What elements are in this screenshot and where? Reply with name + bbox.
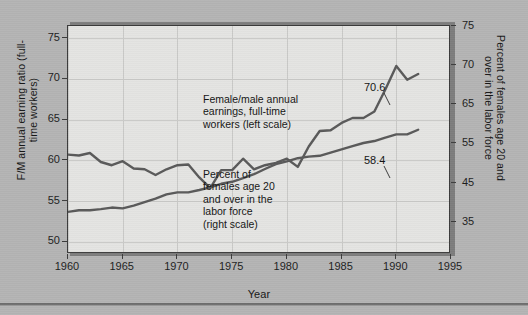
y-tick-label-left: 75 [36,32,60,43]
y-axis-title-right: Percent of females age 20 and over in th… [483,33,507,183]
y-tick-mark-left [62,119,67,120]
y-tick-mark-right [451,64,456,65]
figure-bottom-rule [0,303,528,306]
y-tick-mark-left [62,159,67,160]
x-tick-label: 1985 [321,261,361,272]
value-leader-line [384,166,390,178]
value-label-earnings-ratio: 70.6 [364,81,385,93]
value-leader-line [384,93,390,105]
y-tick-label-right: 75 [462,20,488,31]
annotation-labor-force: Percent of females age 20 and over in th… [203,168,275,230]
y-tick-label-left: 55 [36,195,60,206]
y-tick-label-left: 50 [36,235,60,246]
y-tick-label-right: 35 [462,216,488,227]
y-tick-label-left: 70 [36,72,60,83]
y-tick-mark-left [62,78,67,79]
x-tick-mark [395,254,396,259]
x-tick-label: 1965 [102,261,142,272]
x-tick-label: 1970 [156,261,196,272]
y-tick-label-left: 60 [36,154,60,165]
y-tick-mark-right [451,103,456,104]
y-tick-mark-left [62,200,67,201]
y-tick-mark-left [62,241,67,242]
y-tick-mark-right [451,182,456,183]
x-tick-label: 1975 [211,261,251,272]
x-tick-mark [122,254,123,259]
y-axis-title-left: F/M annual earning ratio (full-time work… [15,35,39,185]
annotation-female-male-earnings: Female/male annual earnings, full-time w… [203,93,298,130]
x-axis-title: Year [214,288,304,300]
x-tick-label: 1960 [47,261,87,272]
y-tick-mark-right [451,221,456,222]
chart-figure: 7570656055507570655545351960196519701975… [0,0,528,315]
x-tick-mark [341,254,342,259]
value-label-labor-force: 58.4 [364,154,385,166]
x-tick-label: 1980 [266,261,306,272]
y-tick-mark-right [451,142,456,143]
y-tick-label-left: 65 [36,113,60,124]
x-tick-mark [450,254,451,259]
x-tick-mark [67,254,68,259]
y-tick-mark-left [62,37,67,38]
y-tick-mark-right [451,25,456,26]
x-tick-mark [231,254,232,259]
x-tick-mark [176,254,177,259]
x-tick-mark [286,254,287,259]
x-tick-label: 1995 [430,261,470,272]
x-tick-label: 1990 [375,261,415,272]
